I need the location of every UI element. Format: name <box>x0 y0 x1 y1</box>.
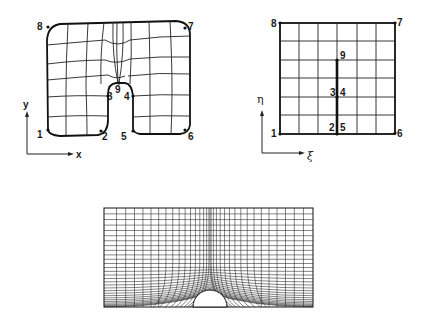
y-axis-label: y <box>23 99 29 110</box>
point-label-6: 6 <box>188 131 194 142</box>
comp-label-1: 1 <box>271 128 277 139</box>
arrow-up-icon <box>260 110 264 116</box>
comp-label-9: 9 <box>340 50 346 61</box>
point-label-3: 3 <box>107 91 113 102</box>
point-label-5: 5 <box>121 131 127 142</box>
physical-grid-lines <box>47 21 190 135</box>
point-label-9: 9 <box>115 84 121 95</box>
computational-domain: 1 2 5 6 7 8 3 4 9 η ξ <box>257 17 403 163</box>
arrow-up-icon <box>25 111 29 117</box>
comp-label-2: 2 <box>329 122 335 133</box>
body-fitted-mesh <box>104 208 313 307</box>
point-label-2: 2 <box>102 131 108 142</box>
arrow-right-icon <box>299 151 305 155</box>
point-label-4: 4 <box>124 91 130 102</box>
computational-axes: η ξ <box>257 93 314 163</box>
x-axis-label: x <box>76 149 82 160</box>
xi-axis-label: ξ <box>307 150 314 163</box>
comp-label-7: 7 <box>397 17 403 28</box>
arrow-right-icon <box>68 152 74 156</box>
comp-label-5: 5 <box>340 122 346 133</box>
comp-label-3: 3 <box>330 87 336 98</box>
diagram-canvas: 1 2 3 4 5 6 7 8 9 y x <box>0 0 425 333</box>
point-label-1: 1 <box>37 129 43 140</box>
point-label-7: 7 <box>188 21 194 32</box>
comp-label-6: 6 <box>397 128 403 139</box>
eta-axis-label: η <box>257 93 264 106</box>
physical-domain: 1 2 3 4 5 6 7 8 9 y x <box>23 21 194 160</box>
physical-axes: y x <box>23 99 82 160</box>
point-label-8: 8 <box>37 21 43 32</box>
comp-label-4: 4 <box>340 87 346 98</box>
comp-label-8: 8 <box>271 18 277 29</box>
